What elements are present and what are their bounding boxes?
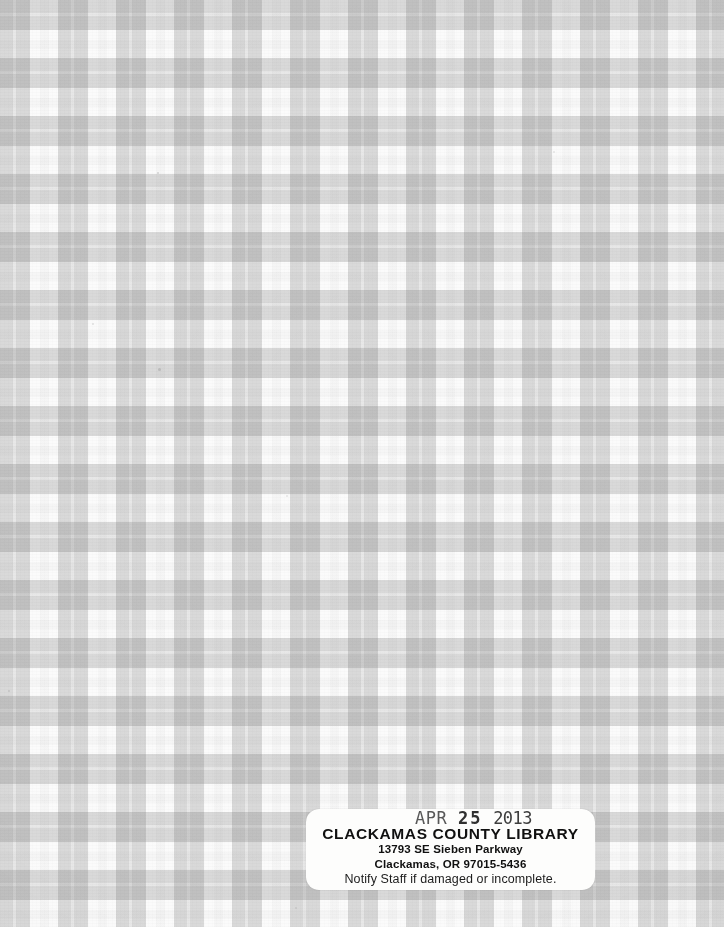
date-due-label: APR 25 2013 CLACKAMAS COUNTY LIBRARY 137…	[306, 809, 595, 890]
library-name: CLACKAMAS COUNTY LIBRARY	[306, 825, 595, 843]
book-endpaper-page: APR 25 2013 CLACKAMAS COUNTY LIBRARY 137…	[0, 0, 724, 927]
date-due-label-content: APR 25 2013 CLACKAMAS COUNTY LIBRARY 137…	[306, 809, 595, 890]
gingham-thin-threads	[0, 0, 724, 927]
library-damage-notice: Notify Staff if damaged or incomplete.	[306, 872, 595, 886]
library-city-state-zip: Clackamas, OR 97015-5436	[306, 858, 595, 870]
library-street-address: 13793 SE Sieben Parkway	[306, 843, 595, 855]
